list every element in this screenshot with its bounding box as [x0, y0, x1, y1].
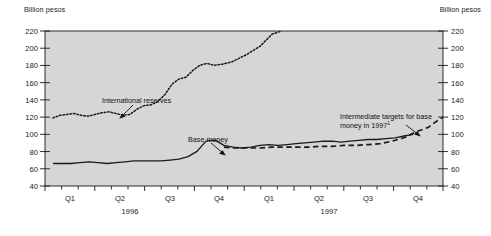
x-tick-1996-q4: Q4: [204, 194, 234, 203]
x-tick-1997-q1: Q1: [254, 194, 284, 203]
annotation-intermediate-targets-text: Intermediate targets for base money in 1…: [340, 112, 432, 130]
y-tick-right-120: 120: [451, 113, 477, 122]
y-tick-right-60: 60: [451, 165, 477, 174]
y-tick-right-140: 140: [451, 96, 477, 105]
y-tick-left-40: 40: [12, 182, 38, 191]
x-tick-1997-q3: Q3: [353, 194, 383, 203]
y-tick-right-220: 220: [451, 27, 477, 36]
x-year-label-1996: 1996: [107, 207, 153, 216]
y-tick-right-40: 40: [451, 182, 477, 191]
y-tick-left-60: 60: [12, 165, 38, 174]
x-tick-1997-q4: Q4: [403, 194, 433, 203]
y-tick-right-100: 100: [451, 130, 477, 139]
annotation-base-money: Base money: [188, 135, 228, 144]
y-axis-label-left: Billion pesos: [24, 5, 65, 14]
y-tick-left-180: 180: [12, 61, 38, 70]
y-tick-right-80: 80: [451, 148, 477, 157]
y-tick-left-200: 200: [12, 44, 38, 53]
annotation-intermediate-targets-footnote: 1: [387, 120, 390, 126]
y-axis-label-right: Billion pesos: [440, 5, 481, 14]
x-axis-ticks: [45, 186, 443, 191]
x-tick-1996-q1: Q1: [55, 194, 85, 203]
y-tick-right-160: 160: [451, 79, 477, 88]
y-tick-right-200: 200: [451, 44, 477, 53]
y-tick-right-180: 180: [451, 61, 477, 70]
y-tick-left-100: 100: [12, 130, 38, 139]
y-tick-left-140: 140: [12, 96, 38, 105]
x-year-label-1997: 1997: [306, 207, 352, 216]
y-tick-left-120: 120: [12, 113, 38, 122]
y-tick-left-80: 80: [12, 148, 38, 157]
annotation-intermediate-targets: Intermediate targets for base money in 1…: [340, 112, 436, 130]
annotation-international-reserves: International reserves: [102, 96, 171, 105]
x-tick-1997-q2: Q2: [304, 194, 334, 203]
y-tick-left-160: 160: [12, 79, 38, 88]
x-tick-1996-q2: Q2: [105, 194, 135, 203]
y-tick-left-220: 220: [12, 27, 38, 36]
x-tick-1996-q3: Q3: [155, 194, 185, 203]
